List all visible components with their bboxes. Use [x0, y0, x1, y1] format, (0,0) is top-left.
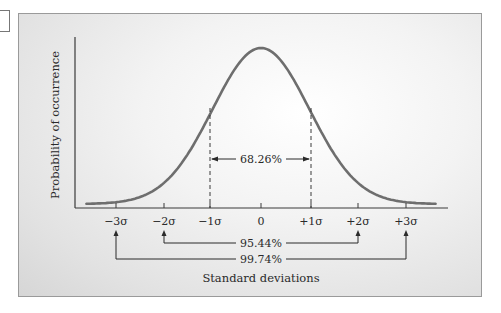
- label-99: 99.74%: [240, 253, 282, 266]
- tick-label-plus-1: +1σ: [299, 215, 323, 228]
- bell-curve: [86, 48, 435, 204]
- arrowheads-99: [114, 230, 409, 236]
- tick-label-minus-3: −3σ: [104, 215, 128, 228]
- normal-distribution-chart: 68.26% −3σ −2σ −1σ 0 +1σ +2σ +3σ 95.44% …: [0, 0, 501, 313]
- label-95: 95.44%: [240, 237, 282, 250]
- tick-label-plus-3: +3σ: [394, 215, 418, 228]
- x-ticks: [116, 203, 406, 208]
- tick-label-minus-1: −1σ: [198, 215, 222, 228]
- tick-label-minus-2: −2σ: [152, 215, 176, 228]
- y-axis-title: Probability of occurrence: [48, 51, 62, 199]
- tick-label-plus-2: +2σ: [346, 215, 370, 228]
- arrowheads-95: [162, 230, 361, 236]
- tick-label-zero: 0: [258, 215, 265, 228]
- label-68: 68.26%: [240, 153, 282, 166]
- tick-labels: −3σ −2σ −1σ 0 +1σ +2σ +3σ: [104, 215, 418, 228]
- x-axis-title: Standard deviations: [202, 271, 319, 285]
